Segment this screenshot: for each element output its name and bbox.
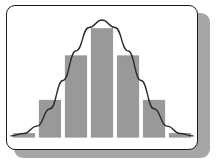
bell-curve-histogram-chart [7,6,197,149]
histogram-image [0,0,217,165]
histogram-bar [91,29,113,137]
histogram-bars [13,29,191,137]
chart-panel [6,5,198,150]
